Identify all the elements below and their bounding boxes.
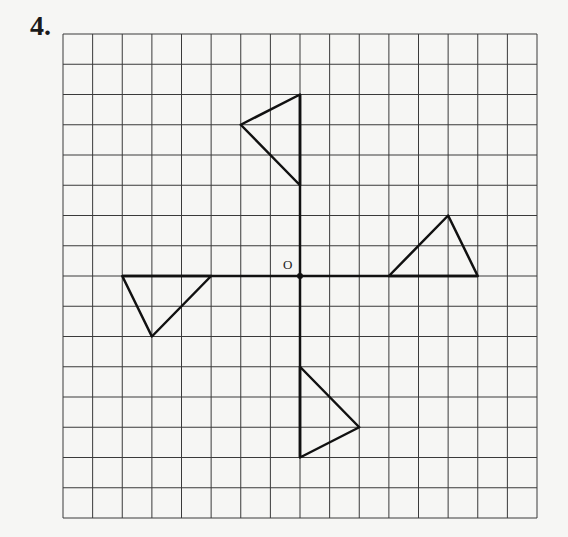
origin-label: O <box>283 257 292 272</box>
coordinate-grid-diagram: O <box>0 0 568 537</box>
origin-point <box>297 273 303 279</box>
